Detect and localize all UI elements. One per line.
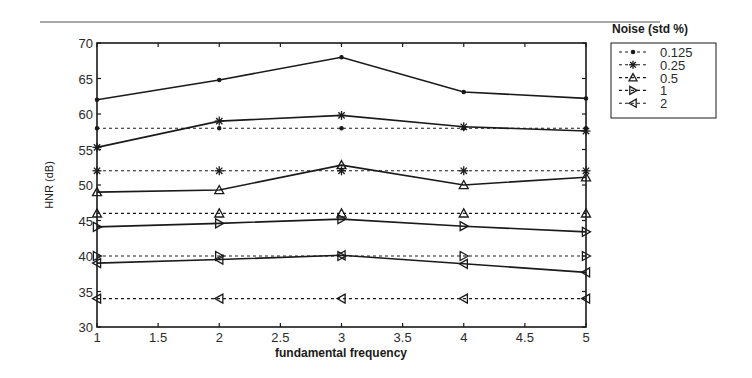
asterisk-marker-icon	[93, 166, 102, 175]
asterisk-marker-icon	[582, 127, 591, 136]
plot-area	[93, 43, 591, 327]
dot-marker-icon	[95, 98, 98, 101]
legend-label: 2	[660, 96, 667, 111]
x-tick-label: 5	[582, 330, 589, 345]
x-tick-label: 4	[460, 330, 467, 345]
series-expected-0_25	[93, 166, 591, 175]
asterisk-marker-icon	[93, 143, 102, 152]
dot-marker-icon	[340, 127, 343, 130]
y-tick-label: 50	[79, 178, 93, 193]
series-expected-2	[93, 294, 590, 303]
series-measured-0_125	[95, 56, 587, 102]
y-tick-label: 55	[79, 143, 93, 158]
chart-canvas: 11.522.533.544.55 303540455055606570 fun…	[0, 0, 752, 378]
x-tick-label: 2.5	[271, 330, 289, 345]
dot-marker-icon	[218, 78, 221, 81]
y-axis-title: HNR (dB)	[43, 161, 55, 209]
x-tick-label: 3	[338, 330, 345, 345]
dot-marker-icon	[584, 97, 587, 100]
x-tick-label: 1.5	[149, 330, 167, 345]
series-expected-0_5	[93, 209, 591, 217]
series-line	[97, 57, 586, 100]
y-tick-label: 45	[79, 214, 93, 229]
series-line	[97, 115, 586, 147]
dot-marker-icon	[95, 127, 98, 130]
y-tick-label: 70	[79, 36, 93, 51]
series-measured-0_5	[93, 161, 591, 196]
dot-marker-icon	[462, 90, 465, 93]
x-tick-label: 4.5	[516, 330, 534, 345]
legend-title: Noise (std %)	[612, 22, 688, 36]
y-tick-label: 35	[79, 285, 93, 300]
x-tick-label: 2	[216, 330, 223, 345]
plot-frame	[97, 43, 586, 327]
asterisk-marker-icon	[215, 117, 224, 126]
asterisk-marker-icon	[337, 166, 346, 175]
dot-marker-icon	[340, 56, 343, 59]
asterisk-marker-icon	[459, 166, 468, 175]
x-tick-label: 3.5	[394, 330, 412, 345]
dot-marker-icon	[631, 50, 634, 53]
asterisk-marker-icon	[215, 166, 224, 175]
y-tick-label: 60	[79, 107, 93, 122]
y-tick-label: 40	[79, 249, 93, 264]
y-tick-label: 30	[79, 320, 93, 335]
asterisk-marker-icon	[337, 111, 346, 120]
y-axis: 303540455055606570	[79, 36, 586, 335]
hnr-line-chart: 11.522.533.544.55 303540455055606570 fun…	[0, 0, 752, 378]
asterisk-marker-icon	[459, 122, 468, 131]
legend: Noise (std %) 0.1250.250.512	[611, 22, 716, 118]
series-measured-0_25	[93, 111, 591, 152]
dot-marker-icon	[218, 127, 221, 130]
x-axis-title: fundamental frequency	[275, 346, 407, 360]
y-tick-label: 65	[79, 72, 93, 87]
series-measured-2	[93, 251, 590, 277]
x-tick-label: 1	[93, 330, 100, 345]
series-measured-1	[93, 215, 590, 237]
